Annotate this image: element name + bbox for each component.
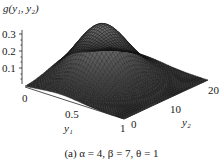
z-tick-0.1: 0.1 <box>2 63 16 74</box>
y2-tick-10: 10 <box>170 104 181 115</box>
figure-caption: (a) α = 4, β = 7, θ = 1 <box>0 147 223 159</box>
z-tick-0.2: 0.2 <box>2 46 16 57</box>
y2-tick-20: 20 <box>208 85 219 96</box>
y1-axis-label: y₁ <box>64 123 73 134</box>
y2-tick-0: 0 <box>131 119 137 130</box>
y1-tick-0.5: 0.5 <box>65 109 79 120</box>
surface-plot <box>0 0 223 163</box>
y1-tick-0: 0 <box>22 93 28 104</box>
z-axis-label: g(y₁, y₂) <box>3 3 39 14</box>
y1-tick-1: 1 <box>120 123 126 134</box>
z-tick-0.3: 0.3 <box>2 29 16 40</box>
y2-axis-label: y₂ <box>182 117 191 128</box>
